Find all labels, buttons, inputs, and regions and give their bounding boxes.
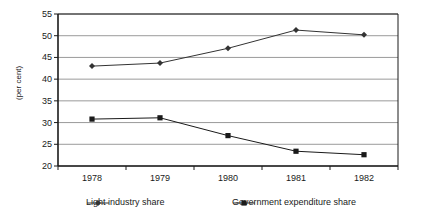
legend-marker-diamond-icon — [86, 198, 110, 208]
data-point-marker — [225, 45, 231, 51]
data-point-marker — [89, 116, 94, 121]
data-point-marker — [361, 32, 367, 38]
legend-marker-square-icon — [232, 198, 256, 208]
plot-area — [0, 0, 423, 219]
legend-item-2[interactable]: Government expenditure share — [232, 198, 356, 207]
data-point-marker — [157, 60, 163, 66]
data-point-marker — [361, 152, 366, 157]
data-point-marker — [157, 115, 162, 120]
data-point-marker — [89, 63, 95, 69]
line-chart: (per cent) 2025303540455055 197819791980… — [0, 0, 423, 219]
data-point-marker — [293, 149, 298, 154]
legend-item-1[interactable]: Light industry share — [86, 198, 165, 207]
data-point-marker — [225, 133, 230, 138]
data-point-marker — [293, 27, 299, 33]
